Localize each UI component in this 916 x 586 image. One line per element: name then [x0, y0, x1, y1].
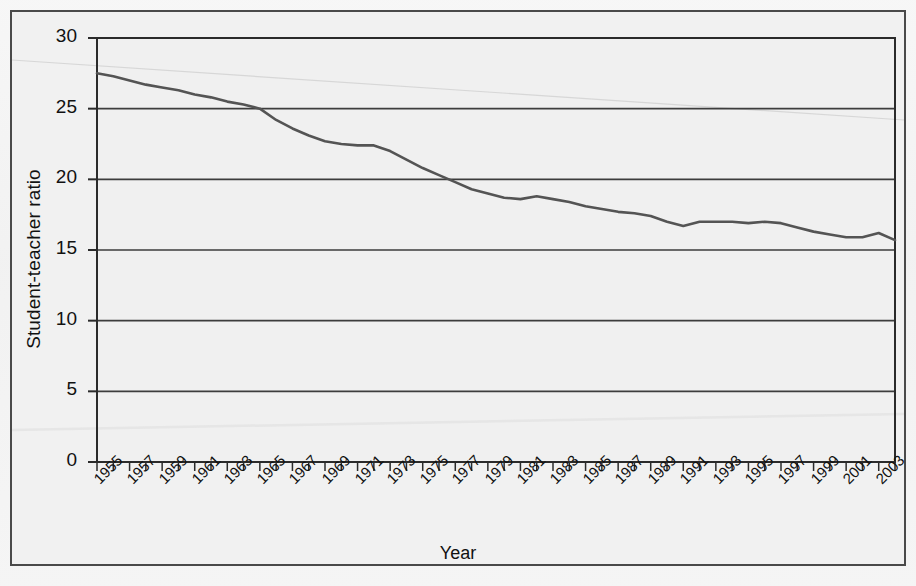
x-axis-title: Year: [0, 543, 916, 564]
line-chart: [0, 0, 916, 586]
y-tick-label: 10: [37, 308, 77, 330]
y-tick-label: 25: [37, 96, 77, 118]
y-tick-label: 5: [37, 378, 77, 400]
y-tick-marks: [88, 38, 97, 462]
y-tick-label: 15: [37, 237, 77, 259]
scanned-figure-page: Student-teacher ratio Year 051015202530 …: [0, 0, 916, 586]
y-tick-label: 30: [37, 25, 77, 47]
y-tick-label: 0: [37, 449, 77, 471]
y-tick-label: 20: [37, 166, 77, 188]
